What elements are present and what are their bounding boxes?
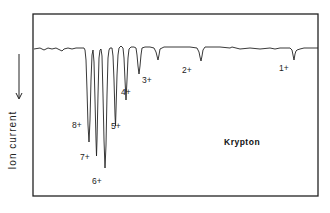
peak-label-3plus: 3+ [142, 75, 152, 85]
peak-label-1plus: 1+ [279, 63, 289, 73]
peak-label-7plus: 7+ [80, 152, 90, 162]
peak-label-2plus: 2+ [182, 65, 192, 75]
peak-label-6plus: 6+ [92, 176, 102, 186]
peak-label-8plus: 8+ [72, 120, 82, 130]
spectrum-trace [34, 46, 318, 168]
peak-label-5plus: 5+ [111, 121, 121, 131]
spectrum-chart [0, 0, 330, 213]
chart-title: Krypton [224, 137, 260, 147]
plot-frame [33, 14, 318, 196]
y-axis-label-text: Ion current [7, 111, 18, 170]
peak-label-4plus: 4+ [121, 87, 131, 97]
y-axis-label: Ion current [2, 70, 22, 210]
